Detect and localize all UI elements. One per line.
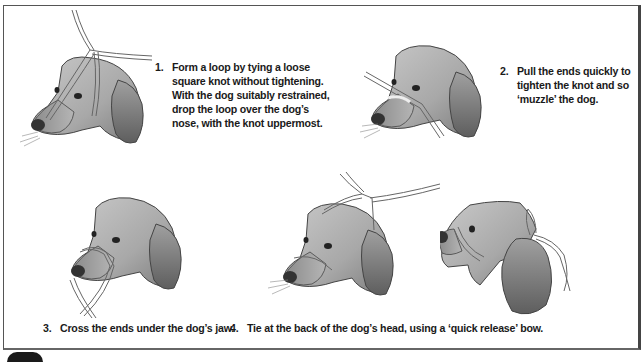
step-2-line: Pull the ends quickly to: [517, 64, 640, 78]
step-4-instruction: 4.Tie at the back of the dog’s head, usi…: [230, 322, 543, 334]
dog-head-icon: [268, 204, 393, 295]
dog-head-icon: [360, 46, 481, 138]
step-2-number: 2.: [500, 64, 508, 78]
step-3-instruction: 3.Cross the ends under the dog’s jaw.: [43, 322, 234, 334]
dog-step-3-illustration: [60, 190, 190, 320]
dog-step-4b-illustration: [440, 195, 600, 320]
dog-step-4a-illustration: [262, 170, 442, 310]
dog-step-2-illustration: [360, 38, 490, 148]
step-1-instruction: 1. Form a loop by tying a loose square k…: [155, 60, 355, 130]
dog-step-1-illustration: [12, 8, 152, 148]
step-1-line: Form a loop by tying a loose: [172, 60, 355, 74]
step-2-instruction: 2. Pull the ends quickly to tighten the …: [500, 64, 640, 106]
step-1-line: nose, with the knot uppermost.: [172, 116, 355, 130]
step-2-line: ‘muzzle’ the dog.: [517, 92, 640, 106]
step-1-line: drop the loop over the dog’s: [172, 102, 355, 116]
dog-profile-icon: [440, 201, 552, 314]
step-3-number: 3.: [43, 322, 60, 334]
step-1-number: 1.: [155, 60, 163, 74]
step-2-line: tighten the knot and so: [517, 78, 640, 92]
step-1-line: With the dog suitably restrained,: [172, 88, 355, 102]
step-4-number: 4.: [230, 322, 247, 334]
step-1-line: square knot without tightening.: [172, 74, 355, 88]
page-tab-marker: [7, 352, 43, 362]
dog-head-icon: [71, 198, 181, 289]
step-3-text: Cross the ends under the dog’s jaw.: [60, 322, 234, 334]
step-4-text: Tie at the back of the dog’s head, using…: [247, 322, 543, 334]
dog-head-icon: [20, 57, 143, 146]
